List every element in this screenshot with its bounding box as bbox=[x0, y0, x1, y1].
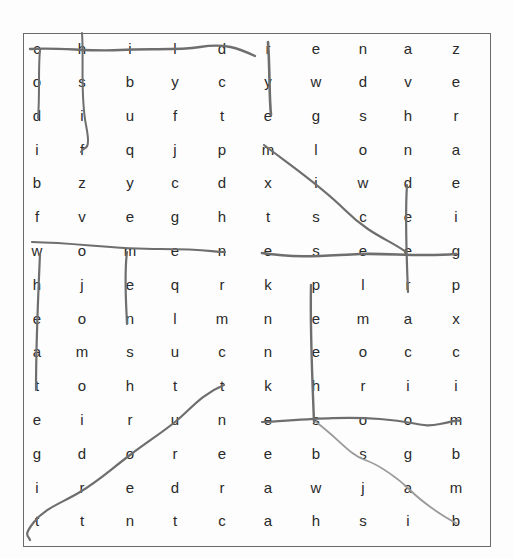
grid-letter: r bbox=[210, 477, 234, 499]
grid-letter: p bbox=[210, 139, 234, 161]
grid-letter: t bbox=[25, 375, 49, 397]
grid-letter: o bbox=[351, 341, 375, 363]
grid-letter: o bbox=[25, 71, 49, 93]
grid-letter: e bbox=[444, 71, 468, 93]
grid-letter: h bbox=[304, 375, 328, 397]
grid-letter: o bbox=[351, 409, 375, 431]
grid-letter: f bbox=[25, 206, 49, 228]
grid-letter: i bbox=[70, 409, 94, 431]
grid-letter: j bbox=[70, 274, 94, 296]
grid-letter: z bbox=[70, 172, 94, 194]
grid-letter: m bbox=[256, 139, 280, 161]
grid-letter: n bbox=[210, 240, 234, 262]
grid-letter: y bbox=[118, 172, 142, 194]
grid-letter: o bbox=[70, 375, 94, 397]
grid-letter: k bbox=[256, 375, 280, 397]
grid-letter: a bbox=[256, 510, 280, 532]
grid-letter: e bbox=[396, 206, 420, 228]
grid-letter: c bbox=[444, 341, 468, 363]
grid-letter: o bbox=[70, 308, 94, 330]
grid-letter: g bbox=[163, 206, 187, 228]
grid-letter: i bbox=[25, 139, 49, 161]
grid-letter: n bbox=[351, 38, 375, 60]
grid-letter: s bbox=[70, 71, 94, 93]
grid-letter: n bbox=[118, 510, 142, 532]
grid-letter: j bbox=[351, 477, 375, 499]
grid-letter: e bbox=[304, 38, 328, 60]
grid-letter: e bbox=[396, 240, 420, 262]
grid-letter: r bbox=[118, 409, 142, 431]
grid-letter: i bbox=[25, 477, 49, 499]
grid-letter: m bbox=[444, 477, 468, 499]
grid-letter: s bbox=[304, 240, 328, 262]
grid-letter: t bbox=[210, 105, 234, 127]
grid-letter: o bbox=[396, 409, 420, 431]
grid-letter: r bbox=[444, 105, 468, 127]
grid-letter: w bbox=[25, 240, 49, 262]
grid-letter: y bbox=[163, 71, 187, 93]
grid-letter: e bbox=[304, 308, 328, 330]
grid-letter: p bbox=[304, 274, 328, 296]
grid-letter: d bbox=[25, 105, 49, 127]
grid-letter: c bbox=[210, 71, 234, 93]
grid-letter: c bbox=[396, 341, 420, 363]
grid-letter: i bbox=[304, 172, 328, 194]
grid-letter: i bbox=[70, 105, 94, 127]
grid-letter: d bbox=[351, 71, 375, 93]
grid-letter: c bbox=[25, 38, 49, 60]
grid-letter: i bbox=[118, 38, 142, 60]
grid-letter: t bbox=[25, 510, 49, 532]
grid-letter: d bbox=[396, 172, 420, 194]
grid-letter: w bbox=[351, 172, 375, 194]
grid-letter: g bbox=[396, 443, 420, 465]
grid-letter: x bbox=[256, 172, 280, 194]
grid-letter: e bbox=[118, 477, 142, 499]
grid-letter: s bbox=[118, 341, 142, 363]
grid-letter: o bbox=[351, 139, 375, 161]
grid-letter: n bbox=[256, 341, 280, 363]
grid-letter: t bbox=[256, 206, 280, 228]
grid-letter: o bbox=[118, 443, 142, 465]
grid-letter: l bbox=[163, 38, 187, 60]
grid-letter: l bbox=[351, 274, 375, 296]
grid-letter: s bbox=[351, 443, 375, 465]
grid-letter: d bbox=[210, 38, 234, 60]
grid-letter: u bbox=[163, 409, 187, 431]
grid-letter: n bbox=[256, 308, 280, 330]
grid-letter: s bbox=[351, 105, 375, 127]
grid-letter: j bbox=[163, 139, 187, 161]
worksheet: childrenazosbycywdvediuftegshrifqjpmlona… bbox=[0, 0, 514, 558]
grid-letter: h bbox=[70, 38, 94, 60]
grid-letter: g bbox=[444, 240, 468, 262]
grid-letter: b bbox=[118, 71, 142, 93]
grid-letter: e bbox=[256, 105, 280, 127]
grid-letter: i bbox=[444, 375, 468, 397]
grid-letter: r bbox=[163, 443, 187, 465]
grid-letter: v bbox=[396, 71, 420, 93]
grid-letter: e bbox=[444, 172, 468, 194]
grid-letter: u bbox=[163, 341, 187, 363]
grid-letter: r bbox=[210, 274, 234, 296]
grid-letter: w bbox=[304, 71, 328, 93]
grid-letter: h bbox=[210, 206, 234, 228]
grid-letter: n bbox=[396, 139, 420, 161]
grid-letter: h bbox=[25, 274, 49, 296]
grid-letter: a bbox=[25, 341, 49, 363]
grid-letter: g bbox=[25, 443, 49, 465]
grid-letter: w bbox=[304, 477, 328, 499]
grid-letter: q bbox=[163, 274, 187, 296]
grid-letter: i bbox=[444, 206, 468, 228]
grid-letter: e bbox=[210, 443, 234, 465]
grid-letter: m bbox=[118, 240, 142, 262]
grid-letter: h bbox=[396, 105, 420, 127]
grid-letter: r bbox=[351, 375, 375, 397]
grid-letter: z bbox=[444, 38, 468, 60]
grid-letter: f bbox=[163, 105, 187, 127]
grid-letter: r bbox=[396, 274, 420, 296]
grid-letter: v bbox=[70, 206, 94, 228]
grid-letter: e bbox=[118, 206, 142, 228]
grid-letter: d bbox=[163, 477, 187, 499]
grid-letter: b bbox=[25, 172, 49, 194]
grid-letter: e bbox=[304, 341, 328, 363]
grid-letter: m bbox=[444, 409, 468, 431]
